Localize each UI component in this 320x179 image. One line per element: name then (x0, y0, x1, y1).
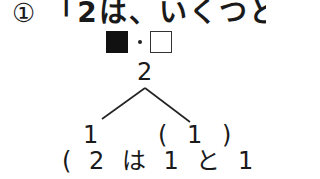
bond-left-number: 1 (83, 122, 98, 148)
bond-right-answer: ( 1 ) (158, 122, 237, 148)
bond-answer-sentence: ( 2 は 1 と 1 ) (62, 148, 266, 174)
